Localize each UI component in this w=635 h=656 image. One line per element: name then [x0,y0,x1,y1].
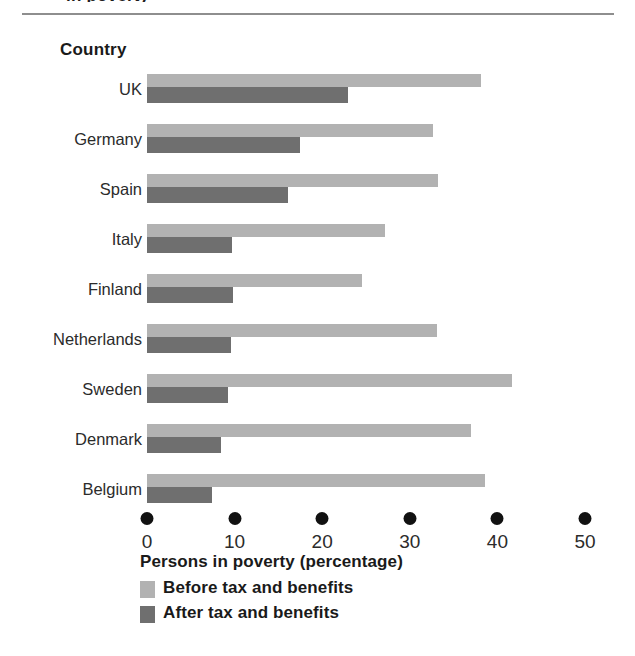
bar-after-tax [147,337,231,353]
x-axis-tick-marker [403,512,416,525]
bar-before-tax [147,424,471,437]
chart-row: UK [0,74,635,114]
x-axis-tick-label: 30 [399,531,420,553]
bar-before-tax [147,74,481,87]
chart-row: Germany [0,124,635,164]
chart-row: Netherlands [0,324,635,364]
x-axis-tick-marker [141,512,154,525]
x-axis-tick-label: 50 [574,531,595,553]
chart-row: Sweden [0,374,635,414]
legend-label: After tax and benefits [163,603,339,623]
bar-after-tax [147,387,228,403]
category-label: Spain [0,180,142,199]
bar-after-tax [147,137,300,153]
category-label: Sweden [0,380,142,399]
bar-before-tax [147,174,438,187]
x-axis-tick-marker [579,512,592,525]
bar-after-tax [147,287,233,303]
bar-after-tax [147,237,232,253]
bar-after-tax [147,487,212,503]
bar-before-tax [147,224,385,237]
legend-color-swatch [140,606,155,623]
bar-before-tax [147,374,512,387]
category-label: Denmark [0,430,142,449]
bar-before-tax [147,274,362,287]
chart-row: Spain [0,174,635,214]
category-label: Germany [0,130,142,149]
chart-row: Belgium [0,474,635,514]
bar-before-tax [147,474,485,487]
x-axis-tick-marker [491,512,504,525]
category-label: Finland [0,280,142,299]
category-label: UK [0,80,142,99]
x-axis-tick-marker [228,512,241,525]
bar-after-tax [147,437,221,453]
chart-row: Finland [0,274,635,314]
bar-before-tax [147,324,437,337]
legend-label: Before tax and benefits [163,578,353,598]
chart-row: Denmark [0,424,635,464]
x-axis-tick-marker [316,512,329,525]
bar-after-tax [147,87,348,103]
bar-after-tax [147,187,288,203]
x-axis-tick-label: 10 [224,531,245,553]
x-axis-tick-label: 0 [142,531,153,553]
legend-color-swatch [140,581,155,598]
category-label: Belgium [0,480,142,499]
x-axis-tick-label: 20 [312,531,333,553]
bar-before-tax [147,124,433,137]
x-axis-tick-label: 40 [487,531,508,553]
category-label: Italy [0,230,142,249]
chart-row: Italy [0,224,635,264]
x-axis-title: Persons in poverty (percentage) [140,552,403,572]
category-label: Netherlands [0,330,142,349]
